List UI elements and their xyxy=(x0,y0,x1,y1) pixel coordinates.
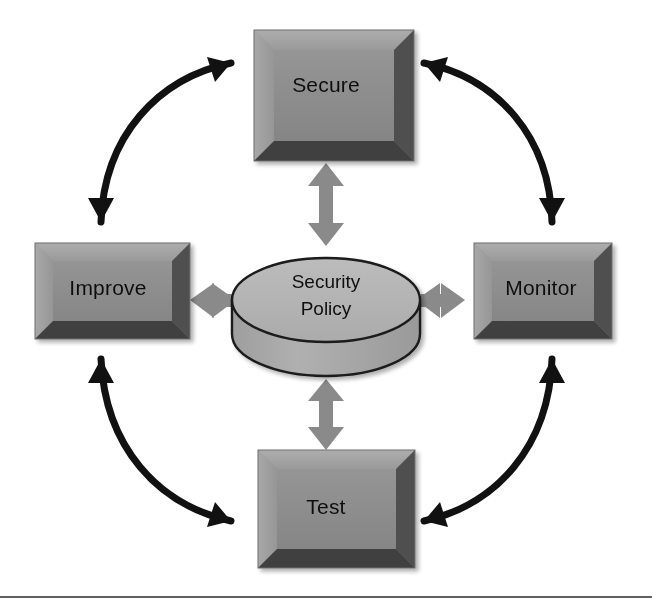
node-monitor[interactable]: Monitor xyxy=(474,243,612,339)
node-improve[interactable]: Improve xyxy=(35,243,190,339)
security-lifecycle-diagram: Security Policy Secure Improve xyxy=(0,0,652,608)
diagram-canvas: Security Policy Secure Improve xyxy=(0,0,652,608)
spoke-arrow-policy-improve xyxy=(190,283,236,318)
cycle-arrow-test-improve xyxy=(88,359,231,527)
node-test-label: Test xyxy=(306,495,345,518)
center-label-line1: Security xyxy=(292,271,361,292)
node-secure[interactable]: Secure xyxy=(254,30,414,161)
node-secure-label: Secure xyxy=(292,73,360,96)
node-monitor-label: Monitor xyxy=(505,276,576,299)
spoke-arrow-policy-secure xyxy=(308,163,344,246)
cycle-arrow-improve-secure xyxy=(88,57,231,222)
node-test[interactable]: Test xyxy=(258,450,415,568)
center-label-line2: Policy xyxy=(301,298,352,319)
spoke-arrow-policy-monitor xyxy=(416,283,465,318)
cycle-arrow-monitor-test xyxy=(424,359,565,527)
cycle-arrow-secure-monitor xyxy=(424,57,565,222)
spoke-arrow-policy-test xyxy=(308,379,344,450)
node-improve-label: Improve xyxy=(69,276,146,299)
security-policy-cylinder: Security Policy xyxy=(232,258,420,376)
